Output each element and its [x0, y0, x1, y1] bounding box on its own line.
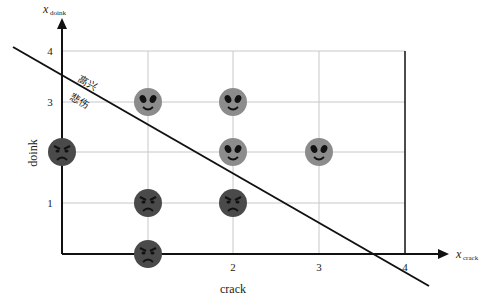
sad-face-icon [48, 138, 76, 166]
y-axis-symbol: x [42, 2, 49, 16]
x-axis-label: crack [220, 282, 246, 296]
y-axis-subscript: doink [50, 9, 66, 17]
region-label-sad: 悲伤 [68, 90, 91, 110]
sad-face-icon [134, 240, 162, 268]
y-tick-4: 4 [47, 45, 53, 57]
happy-face-icon [134, 88, 162, 116]
x-tick-2: 2 [230, 261, 236, 273]
y-tick-3: 3 [47, 96, 53, 108]
scatter-diagram: x doink x crack crack doink 2 3 4 1 3 4 … [0, 0, 485, 305]
happy-face-icon [305, 138, 333, 166]
decision-boundary-line [13, 47, 429, 286]
sad-face-icon [219, 189, 247, 217]
y-axis [57, 18, 67, 254]
x-axis [62, 249, 449, 259]
y-axis-label: doink [26, 139, 40, 166]
x-axis-subscript: crack [463, 254, 479, 262]
x-axis-symbol: x [455, 247, 462, 261]
y-axis-arrow-icon [57, 18, 67, 29]
y-tick-1: 1 [47, 197, 53, 209]
happy-face-icon [219, 88, 247, 116]
sad-face-icon [134, 189, 162, 217]
x-axis-arrow-icon [438, 249, 449, 259]
happy-face-icon [219, 138, 247, 166]
x-tick-3: 3 [316, 261, 322, 273]
